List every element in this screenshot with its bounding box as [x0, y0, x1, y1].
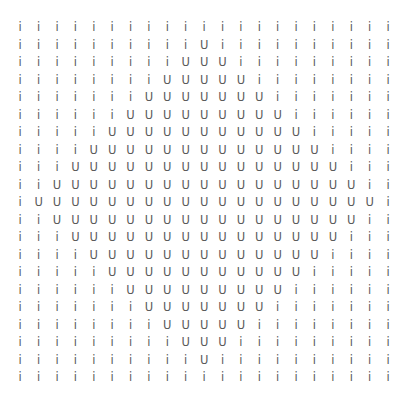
- grid-cell-u: U: [177, 159, 195, 177]
- grid-cell-i: i: [360, 264, 378, 282]
- grid-cell-i: i: [103, 352, 121, 370]
- grid-cell-u: U: [268, 229, 286, 247]
- grid-cell-i: i: [48, 369, 66, 387]
- grid-cell-i: i: [29, 124, 47, 142]
- grid-cell-i: i: [379, 19, 397, 37]
- grid-cell-u: U: [121, 247, 139, 265]
- grid-cell-i: i: [177, 19, 195, 37]
- grid-cell-i: i: [85, 352, 103, 370]
- grid-cell-u: U: [103, 229, 121, 247]
- grid-cell-i: i: [11, 247, 29, 265]
- grid-cell-i: i: [379, 247, 397, 265]
- grid-cell-i: i: [305, 369, 323, 387]
- grid-cell-u: U: [177, 194, 195, 212]
- grid-cell-u: U: [85, 194, 103, 212]
- grid-cell-u: U: [140, 212, 158, 230]
- grid-cell-i: i: [103, 37, 121, 55]
- grid-cell-u: U: [85, 229, 103, 247]
- grid-cell-i: i: [360, 19, 378, 37]
- grid-cell-i: i: [48, 282, 66, 300]
- grid-cell-i: i: [324, 369, 342, 387]
- grid-cell-i: i: [11, 229, 29, 247]
- grid-cell-u: U: [232, 142, 250, 160]
- grid-cell-u: U: [158, 264, 176, 282]
- grid-cell-u: U: [213, 159, 231, 177]
- grid-cell-u: U: [177, 229, 195, 247]
- grid-cell-i: i: [305, 299, 323, 317]
- grid-cell-u: U: [121, 159, 139, 177]
- grid-cell-u: U: [66, 212, 84, 230]
- grid-cell-i: i: [342, 54, 360, 72]
- grid-cell-i: i: [305, 264, 323, 282]
- grid-cell-u: U: [232, 177, 250, 195]
- grid-cell-i: i: [85, 89, 103, 107]
- grid-cell-i: i: [324, 299, 342, 317]
- grid-cell-u: U: [305, 247, 323, 265]
- grid-cell-u: U: [232, 299, 250, 317]
- grid-cell-u: U: [305, 177, 323, 195]
- grid-cell-i: i: [85, 264, 103, 282]
- grid-cell-i: i: [48, 317, 66, 335]
- grid-cell-i: i: [11, 89, 29, 107]
- grid-cell-i: i: [305, 282, 323, 300]
- grid-cell-i: i: [11, 159, 29, 177]
- grid-cell-i: i: [66, 54, 84, 72]
- grid-cell-u: U: [232, 107, 250, 125]
- grid-cell-u: U: [121, 264, 139, 282]
- grid-cell-i: i: [85, 19, 103, 37]
- grid-cell-u: U: [140, 229, 158, 247]
- grid-cell-u: U: [158, 89, 176, 107]
- grid-cell-u: U: [195, 212, 213, 230]
- grid-cell-i: i: [103, 89, 121, 107]
- grid-cell-i: i: [177, 369, 195, 387]
- grid-cell-u: U: [158, 72, 176, 90]
- grid-cell-i: i: [11, 177, 29, 195]
- grid-cell-u: U: [250, 177, 268, 195]
- grid-cell-u: U: [232, 124, 250, 142]
- grid-cell-i: i: [11, 299, 29, 317]
- grid-cell-i: i: [379, 72, 397, 90]
- grid-cell-i: i: [85, 54, 103, 72]
- grid-cell-u: U: [213, 299, 231, 317]
- grid-cell-i: i: [213, 37, 231, 55]
- grid-cell-u: U: [158, 229, 176, 247]
- grid-cell-u: U: [158, 107, 176, 125]
- grid-cell-i: i: [29, 247, 47, 265]
- grid-cell-i: i: [360, 72, 378, 90]
- grid-cell-u: U: [48, 194, 66, 212]
- grid-cell-i: i: [342, 159, 360, 177]
- grid-cell-u: U: [158, 124, 176, 142]
- grid-cell-i: i: [324, 247, 342, 265]
- grid-cell-u: U: [250, 107, 268, 125]
- grid-cell-i: i: [29, 54, 47, 72]
- grid-cell-i: i: [305, 107, 323, 125]
- grid-cell-i: i: [342, 299, 360, 317]
- grid-cell-i: i: [324, 352, 342, 370]
- grid-cell-i: i: [48, 229, 66, 247]
- grid-cell-i: i: [66, 72, 84, 90]
- grid-cell-i: i: [11, 54, 29, 72]
- grid-cell-i: i: [85, 282, 103, 300]
- grid-cell-u: U: [232, 317, 250, 335]
- grid-cell-i: i: [342, 124, 360, 142]
- grid-cell-u: U: [121, 229, 139, 247]
- grid-cell-i: i: [360, 89, 378, 107]
- character-grid: iiiiiiiiiiiiiiiiiiiiiiiiiiiiiiiUiiiiiiii…: [11, 19, 397, 387]
- grid-cell-u: U: [250, 212, 268, 230]
- grid-cell-u: U: [213, 264, 231, 282]
- grid-cell-i: i: [305, 72, 323, 90]
- grid-cell-u: U: [213, 247, 231, 265]
- grid-cell-u: U: [324, 194, 342, 212]
- grid-cell-i: i: [158, 19, 176, 37]
- grid-cell-u: U: [287, 194, 305, 212]
- grid-cell-u: U: [195, 299, 213, 317]
- grid-cell-u: U: [140, 247, 158, 265]
- grid-cell-i: i: [360, 177, 378, 195]
- grid-cell-i: i: [29, 107, 47, 125]
- grid-cell-i: i: [232, 369, 250, 387]
- grid-cell-i: i: [85, 37, 103, 55]
- grid-cell-i: i: [232, 334, 250, 352]
- grid-cell-u: U: [232, 89, 250, 107]
- grid-cell-i: i: [29, 19, 47, 37]
- grid-cell-u: U: [195, 107, 213, 125]
